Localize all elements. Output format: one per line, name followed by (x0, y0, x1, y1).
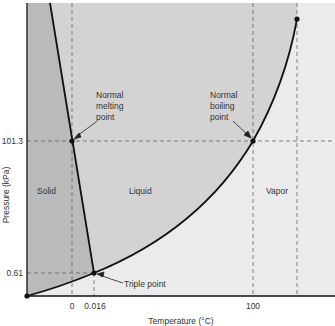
vapor-label: Vapor (266, 186, 288, 196)
origin-point (24, 293, 29, 298)
phase-diagram: Normal melting point Normal boiling poin… (0, 0, 335, 326)
liquid-label: Liquid (129, 186, 152, 196)
x-axis-label: Temperature (°C) (148, 316, 213, 326)
x-tick-0: 0 (70, 301, 75, 311)
critical-point-marker (294, 16, 299, 21)
solid-label: Solid (37, 186, 56, 196)
y-tick-101-3: 101.3 (2, 136, 24, 146)
y-tick-0-61: 0.61 (6, 268, 23, 278)
y-axis-label: Pressure (kPa) (1, 166, 11, 223)
boiling-point-marker (250, 138, 255, 143)
x-tick-100: 100 (246, 301, 260, 311)
x-tick-0-016: 0.016 (84, 301, 106, 311)
triple-point-label: Triple point (124, 279, 166, 289)
triple-point-marker (91, 270, 96, 275)
